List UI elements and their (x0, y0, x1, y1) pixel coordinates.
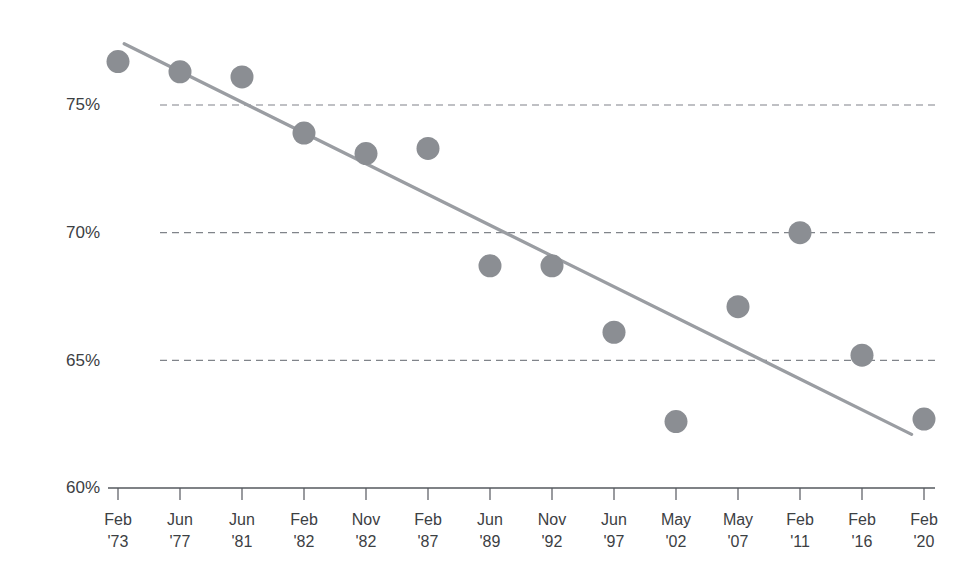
y-axis-labels: 75%70%65%60% (66, 95, 100, 497)
x-axis-tick-label: Feb'73 (104, 511, 132, 550)
x-axis-year-label: '81 (232, 533, 253, 550)
x-axis (108, 488, 935, 500)
data-point (541, 254, 564, 277)
data-point (107, 50, 130, 73)
x-axis-month-label: May (661, 511, 691, 528)
x-axis-year-label: '73 (108, 533, 129, 550)
x-axis-tick-label: Feb'11 (786, 511, 814, 550)
data-point (169, 60, 192, 83)
x-axis-labels: Feb'73Jun'77Jun'81Feb'82Nov'82Feb'87Jun'… (104, 511, 938, 550)
x-axis-year-label: '82 (294, 533, 315, 550)
x-axis-month-label: Jun (167, 511, 193, 528)
x-axis-month-label: Jun (477, 511, 503, 528)
y-axis-tick-label: 75% (66, 95, 100, 114)
x-axis-tick-label: Jun'89 (477, 511, 503, 550)
data-point (603, 321, 626, 344)
gridlines (160, 105, 935, 360)
x-axis-year-label: '20 (914, 533, 935, 550)
x-axis-tick-label: Feb'16 (848, 511, 876, 550)
x-axis-year-label: '82 (356, 533, 377, 550)
x-axis-tick-label: Feb'20 (910, 511, 938, 550)
y-axis-tick-label: 65% (66, 351, 100, 370)
x-axis-tick-label: Nov'82 (352, 511, 380, 550)
x-axis-tick-label: Feb'87 (414, 511, 442, 550)
x-axis-year-label: '77 (170, 533, 191, 550)
chart-container: 75%70%65%60% Feb'73Jun'77Jun'81Feb'82Nov… (0, 0, 980, 584)
y-axis-tick-label: 70% (66, 223, 100, 242)
x-axis-year-label: '02 (666, 533, 687, 550)
x-axis-month-label: Feb (290, 511, 318, 528)
x-axis-tick-label: Jun'77 (167, 511, 193, 550)
x-axis-year-label: '16 (852, 533, 873, 550)
x-axis-month-label: Feb (910, 511, 938, 528)
x-axis-month-label: Jun (601, 511, 627, 528)
x-axis-tick-label: Feb'82 (290, 511, 318, 550)
x-axis-tick-label: May'07 (723, 511, 753, 550)
x-axis-tick-label: Jun'97 (601, 511, 627, 550)
data-point (479, 254, 502, 277)
x-axis-year-label: '92 (542, 533, 563, 550)
data-point (417, 137, 440, 160)
x-axis-month-label: Nov (538, 511, 566, 528)
x-axis-month-label: Feb (414, 511, 442, 528)
x-axis-year-label: '97 (604, 533, 625, 550)
data-point (231, 65, 254, 88)
x-axis-month-label: Feb (786, 511, 814, 528)
x-axis-tick-label: May'02 (661, 511, 691, 550)
data-point (913, 408, 936, 431)
x-axis-tick-label: Nov'92 (538, 511, 566, 550)
x-axis-year-label: '07 (728, 533, 749, 550)
data-point (851, 344, 874, 367)
x-axis-month-label: Feb (104, 511, 132, 528)
data-point (355, 142, 378, 165)
x-axis-year-label: '89 (480, 533, 501, 550)
x-axis-month-label: May (723, 511, 753, 528)
x-axis-year-label: '11 (790, 533, 810, 550)
x-axis-year-label: '87 (418, 533, 439, 550)
data-point (727, 295, 750, 318)
scatter-chart: 75%70%65%60% Feb'73Jun'77Jun'81Feb'82Nov… (0, 0, 980, 584)
data-point (789, 221, 812, 244)
x-axis-month-label: Nov (352, 511, 380, 528)
x-axis-tick-label: Jun'81 (229, 511, 255, 550)
data-point (293, 122, 316, 145)
x-axis-month-label: Feb (848, 511, 876, 528)
data-point (665, 410, 688, 433)
x-axis-month-label: Jun (229, 511, 255, 528)
y-axis-tick-label: 60% (66, 478, 100, 497)
